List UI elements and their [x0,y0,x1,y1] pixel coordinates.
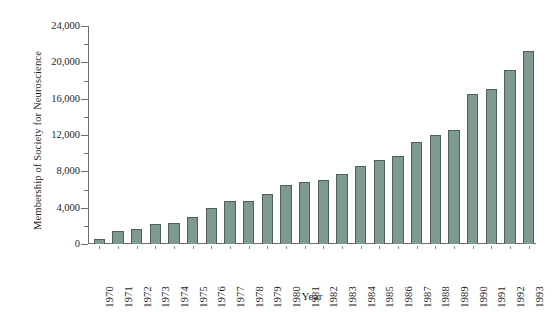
bar [392,156,404,244]
bar [374,160,386,244]
x-axis-tick-mark [435,246,436,249]
bar [411,142,423,244]
y-axis-tick-mark [81,171,88,172]
x-axis-tick-mark [342,246,343,249]
bar [467,94,479,244]
x-axis-tick-mark [99,246,100,249]
bar [318,180,330,244]
y-axis-tick-label: 8,000 [22,166,80,176]
y-axis-tick-label-group: 04,0008,00012,00016,00020,00024,000 [22,0,80,312]
x-axis-tick-mark [286,246,287,249]
x-axis-title: Year [88,290,536,302]
bar [224,201,236,244]
bar [430,135,442,244]
y-axis-tick-label: 0 [22,239,80,249]
bar [187,217,199,244]
x-axis-tick-mark [473,246,474,249]
bar [150,224,162,244]
bars-group [88,26,536,244]
x-axis-tick-mark [174,246,175,249]
bar [336,174,348,244]
x-axis-tick-mark [155,246,156,249]
x-axis-tick-mark [529,246,530,249]
bar [504,70,516,244]
y-axis-tick-label: 20,000 [22,57,80,67]
x-axis-tick-mark [118,246,119,249]
x-axis-tick-mark [211,246,212,249]
x-axis-tick-mark [510,246,511,249]
bar [262,194,274,244]
y-axis-tick-mark [81,208,88,209]
x-axis-tick-mark [361,246,362,249]
y-axis-tick-mark [81,99,88,100]
bar [299,182,311,244]
x-axis-tick-mark [193,246,194,249]
x-axis-tick-mark [379,246,380,249]
bar [112,231,124,244]
bar-chart: Membership of Society for Neuroscience 0… [0,0,558,312]
x-axis-tick-mark [230,246,231,249]
y-axis-tick-label: 12,000 [22,130,80,140]
bar [486,89,498,244]
x-axis-tick-mark [398,246,399,249]
bar [355,166,367,244]
y-axis-tick-mark [81,244,88,245]
bar [206,208,218,244]
x-axis-tick-mark [249,246,250,249]
x-axis-tick-mark [305,246,306,249]
x-axis-tick-mark [323,246,324,249]
y-axis-tick-mark [81,62,88,63]
x-axis-tick-mark [137,246,138,249]
x-axis-tick-mark [454,246,455,249]
y-axis-tick-label: 24,000 [22,21,80,31]
bar [94,239,106,244]
x-axis-tick-mark [417,246,418,249]
x-axis-tick-mark [267,246,268,249]
bar [243,201,255,244]
x-axis-tick-label-group: 1970197119721973197419751976197719781979… [88,246,536,288]
y-axis-tick-mark [81,135,88,136]
bar [168,223,180,244]
y-axis-tick-mark [81,26,88,27]
plot-area [88,26,536,244]
y-axis-tick-label: 4,000 [22,203,80,213]
bar [523,51,535,244]
y-axis-tick-label: 16,000 [22,94,80,104]
bar [131,229,143,244]
x-axis-tick-mark [491,246,492,249]
bar [280,185,292,244]
bar [448,130,460,244]
